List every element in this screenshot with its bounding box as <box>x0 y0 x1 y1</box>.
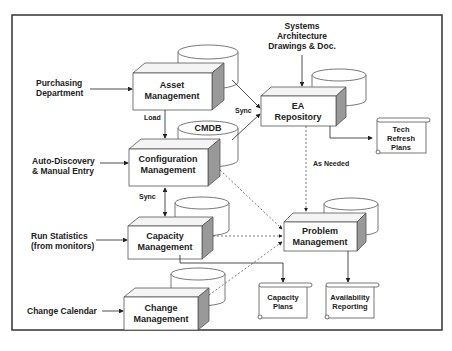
asset-label-2: Management <box>144 91 199 101</box>
input-changecal: Change Calendar <box>27 306 98 316</box>
change-label-2: Management <box>133 314 188 324</box>
edge-label-load: Load <box>144 114 161 121</box>
diagram-canvas: CMDB <box>0 0 452 351</box>
techrefresh-label-1: Tech <box>393 125 410 134</box>
input-runstats-1: Run Statistics <box>31 231 88 241</box>
input-purchasing-2: Department <box>36 88 83 98</box>
techrefresh-label-3: Plans <box>391 143 411 152</box>
capacity-label-1: Capacity <box>146 231 184 241</box>
config-label-2: Management <box>140 165 195 175</box>
change-label-1: Change <box>144 303 177 313</box>
capplans-label-2: Plans <box>273 302 293 311</box>
input-purchasing-1: Purchasing <box>36 78 82 88</box>
edge-label-as-needed: As Needed <box>313 160 349 167</box>
availability-label-1: Availability <box>330 293 370 302</box>
capplans-label-1: Capacity <box>267 293 299 302</box>
problem-label-1: Problem <box>302 226 338 236</box>
techrefresh-label-2: Refresh <box>387 134 415 143</box>
input-autodiscovery-2: & Manual Entry <box>32 166 94 176</box>
config-label-1: Configuration <box>139 154 198 164</box>
ea-label-1: EA <box>292 101 305 111</box>
edge-label-sync-ea: Sync <box>235 107 252 115</box>
availability-label-2: Reporting <box>332 302 368 311</box>
asset-label-1: Asset <box>160 80 185 90</box>
input-runstats-2: (from monitors) <box>31 241 94 251</box>
problem-label-2: Management <box>292 237 347 247</box>
input-systems-1: Systems <box>285 21 320 31</box>
cmdb-label: CMDB <box>195 123 222 133</box>
capacity-label-2: Management <box>137 242 192 252</box>
ea-label-2: Repository <box>274 112 321 122</box>
input-autodiscovery-1: Auto-Discovery <box>32 156 95 166</box>
input-systems-3: Drawings & Doc. <box>268 41 336 51</box>
edge-label-sync-capacity: Sync <box>139 193 156 201</box>
input-systems-2: Architecture <box>277 31 327 41</box>
